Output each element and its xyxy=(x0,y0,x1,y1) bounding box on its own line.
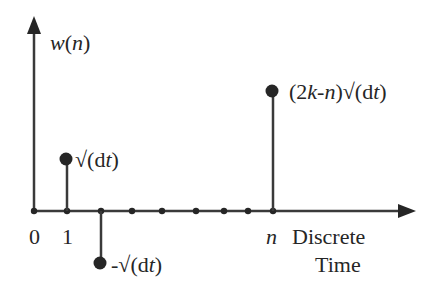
stem-positive-1 xyxy=(60,153,73,212)
y-axis-arrowhead-icon xyxy=(27,16,41,34)
tick-label-0: 0 xyxy=(29,224,40,249)
y-axis-label: w(n) xyxy=(50,30,90,55)
stem-label-negative: -√(dt) xyxy=(111,252,162,277)
tick-label-n: n xyxy=(266,224,277,249)
stem-head-dot xyxy=(266,85,279,98)
stem-negative-2 xyxy=(94,211,107,270)
stem-n xyxy=(266,85,279,212)
x-axis-arrowhead-icon xyxy=(398,204,416,218)
stem-head-dot xyxy=(60,153,73,166)
stem-label-n: (2k-n)√(dt) xyxy=(289,79,387,104)
x-axis-label-line1: Discrete xyxy=(292,224,365,249)
stem-label-positive: √(dt) xyxy=(75,147,119,172)
tick-label-1: 1 xyxy=(62,224,73,249)
stem-head-dot xyxy=(94,257,107,270)
diagram-canvas: w(n) √(dt) -√(dt) (2k-n)√(dt) 0 1 n Disc… xyxy=(0,0,435,295)
x-axis-label-line2: Time xyxy=(315,252,361,277)
stem-plot: w(n) √(dt) -√(dt) (2k-n)√(dt) 0 1 n Disc… xyxy=(0,0,435,295)
